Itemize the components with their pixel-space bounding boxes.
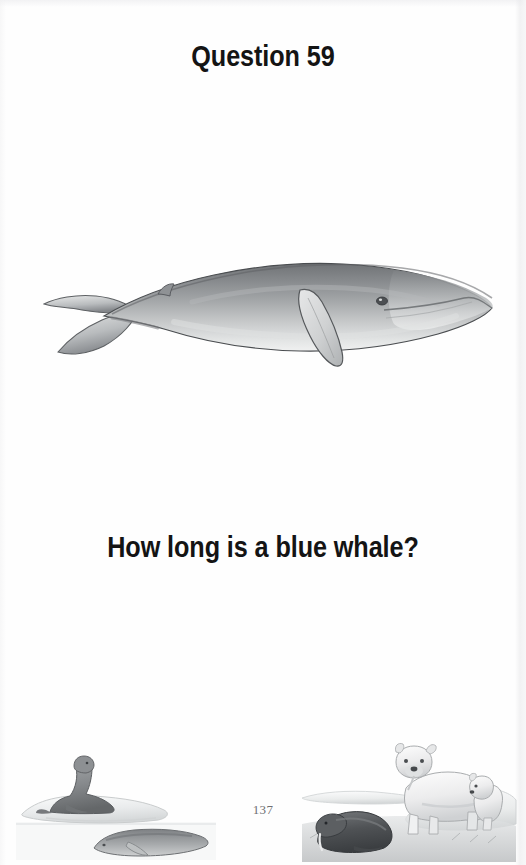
polar-bear-cub-nose — [470, 790, 475, 794]
page-edge-right-shadow — [515, 0, 526, 865]
blue-whale-illustration — [42, 228, 494, 383]
whale-eye — [377, 297, 388, 305]
polar-bear-eye-right — [420, 759, 424, 763]
page-title: Question 59 — [42, 39, 484, 73]
polar-bear-cub-eye — [474, 784, 477, 787]
polar-bear-eye-left — [404, 759, 408, 763]
polar-bear-ear-right — [426, 745, 436, 754]
polar-bear-leg-front-right — [429, 816, 438, 834]
polar-bear-nose — [411, 767, 418, 772]
arctic-vignette-left — [16, 752, 216, 860]
book-page: Question 59 — [0, 0, 526, 865]
page-edge-top-shadow — [0, 0, 526, 7]
polar-bear-cub-leg — [483, 818, 492, 830]
arctic-vignette-right — [302, 742, 516, 862]
polar-bear-leg-front-left — [408, 814, 418, 834]
sea-lion-head — [74, 756, 94, 773]
page-edge-left-shadow — [0, 0, 6, 865]
polar-bear-leg-rear — [467, 812, 478, 830]
whale-eye-highlight — [379, 299, 382, 301]
walrus-eye — [325, 822, 328, 825]
question-text: How long is a blue whale? — [42, 530, 484, 564]
sea-lion-eye — [86, 762, 89, 765]
small-whale-eye — [102, 844, 105, 846]
